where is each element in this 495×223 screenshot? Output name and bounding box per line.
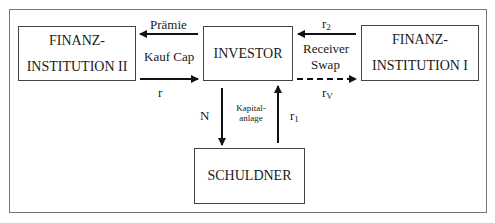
edge-label-kapitalanlage-line1: Kapital- — [234, 103, 268, 113]
node-finanzinstitution-i: FINANZ- INSTITUTION I — [361, 25, 479, 81]
edge-label-rv: rV — [322, 86, 333, 101]
node-label-line2: INSTITUTION II — [27, 60, 128, 74]
edge-label-kapitalanlage-line2: anlage — [234, 113, 268, 123]
edge-label-r2-sub: 2 — [326, 22, 331, 32]
edge-label-receiver: Receiver — [303, 42, 349, 55]
edge-label-kapitalanlage: Kapital- anlage — [234, 103, 268, 124]
node-schuldner: SCHULDNER — [194, 148, 305, 204]
edge-label-r2: r2 — [322, 17, 331, 32]
node-investor: INVESTOR — [203, 26, 293, 81]
edge-label-praemie: Prämie — [150, 18, 187, 31]
edge-label-rv-sub: V — [326, 91, 333, 101]
edge-label-kauf-cap: Kauf Cap — [144, 50, 194, 63]
edge-label-r: r — [158, 86, 162, 99]
edge-label-r1-sub: 1 — [294, 114, 299, 124]
node-label-line1: FINANZ- — [49, 34, 105, 48]
node-finanzinstitution-ii: FINANZ- INSTITUTION II — [18, 26, 136, 81]
node-label-line2: INSTITUTION I — [372, 59, 468, 73]
node-label: INVESTOR — [214, 47, 283, 61]
edge-label-r1: r1 — [290, 109, 299, 124]
node-label-line1: FINANZ- — [392, 33, 448, 47]
edge-label-n: N — [200, 109, 209, 122]
node-label: SCHULDNER — [207, 169, 291, 183]
edge-label-swap: Swap — [311, 58, 340, 71]
